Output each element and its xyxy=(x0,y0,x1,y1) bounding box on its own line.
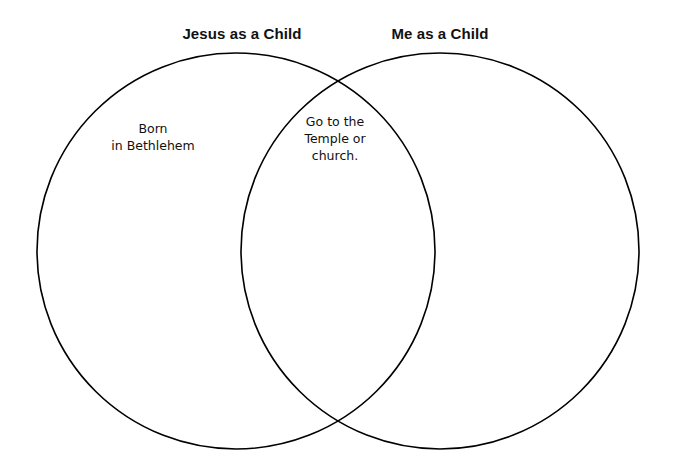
right-circle-heading: Me as a Child xyxy=(250,25,630,42)
venn-diagram-canvas xyxy=(0,0,674,471)
left-content-line-1: Born xyxy=(63,120,243,137)
left-circle-content[interactable]: Born in Bethlehem xyxy=(63,120,243,154)
overlap-content-line-2: Temple or xyxy=(275,130,395,147)
overlap-content[interactable]: Go to the Temple or church. xyxy=(275,113,395,164)
overlap-content-line-3: church. xyxy=(275,147,395,164)
overlap-content-line-1: Go to the xyxy=(275,113,395,130)
venn-diagram-worksheet: Jesus as a Child Me as a Child Born in B… xyxy=(0,0,674,471)
left-content-line-2: in Bethlehem xyxy=(63,137,243,154)
